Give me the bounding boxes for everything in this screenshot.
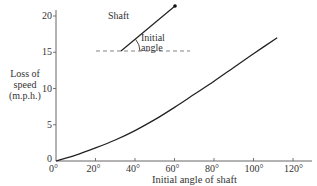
y-tick-label: 15 [42,46,52,57]
loss-of-speed-curve [56,38,277,161]
x-tick-label: 20° [87,163,101,174]
shaft-end-dot [173,4,177,8]
y-axis-label-line-3: (m.p.h.) [2,90,48,101]
x-tick-label: 60° [166,163,180,174]
x-axis-label: Initial angle of shaft [152,174,237,185]
y-axis-label-line-1: Loss of [2,68,48,79]
y-tick-label: 5 [47,119,52,130]
x-tick-label: 40° [126,163,140,174]
x-tick-label: 120° [284,163,303,174]
x-tick-label: 80° [205,163,219,174]
y-axis-label: Loss of speed (m.p.h.) [2,68,48,101]
x-tick-label: 0° [49,163,58,174]
y-tick-label: 20 [42,10,52,21]
initial-angle-label-line-2: angle [141,43,165,53]
angle-arc-icon [136,39,140,51]
shaft-label: Shaft [108,10,129,21]
x-tick-label: 100° [245,163,264,174]
y-axis-label-line-2: speed [2,79,48,90]
initial-angle-label: Initial angle [141,33,165,53]
